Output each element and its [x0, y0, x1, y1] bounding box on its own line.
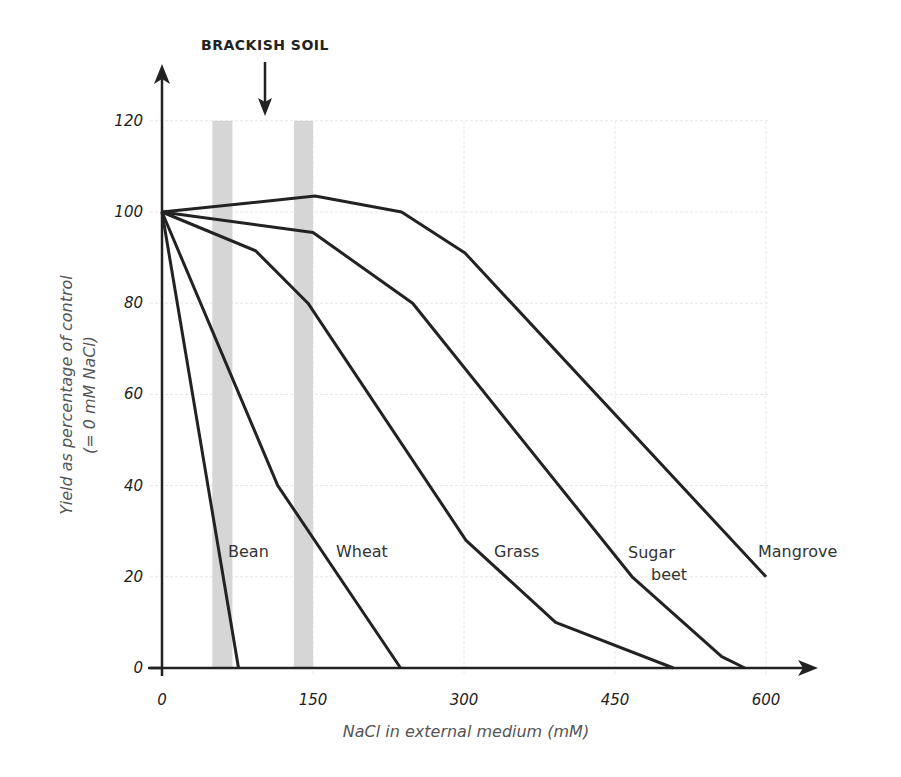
y-axis-sublabel: (= 0 mM NaCl) — [80, 336, 99, 454]
series-label-beet: beet — [651, 565, 687, 584]
shaded-band — [294, 121, 313, 668]
series-line-wheat — [162, 212, 401, 668]
x-tick-label: 150 — [299, 691, 328, 709]
y-axis-label: Yield as percentage of control — [57, 275, 76, 515]
y-tick-label: 20 — [124, 568, 143, 586]
y-tick-labels: 020406080100120 — [114, 112, 162, 677]
brackish-soil-annotation: BRACKISH SOIL — [201, 37, 329, 53]
shaded-band — [212, 121, 232, 668]
salinity-yield-chart: 020406080100120 0150300450600 BRACKISH S… — [0, 0, 901, 777]
y-tick-label: 80 — [124, 294, 143, 312]
y-tick-label: 0 — [133, 659, 143, 677]
x-tick-labels: 0150300450600 — [157, 691, 780, 709]
series-label-sugar: Sugar — [628, 543, 675, 562]
series-label-wheat: Wheat — [336, 542, 388, 561]
x-axis-label: NaCl in external medium (mM) — [343, 722, 589, 741]
series-label-bean: Bean — [228, 542, 269, 561]
series-label-grass: Grass — [494, 542, 539, 561]
x-tick-label: 300 — [450, 691, 479, 709]
x-tick-label: 450 — [601, 691, 630, 709]
y-tick-label: 120 — [114, 112, 143, 130]
series-line-sugar-beet — [162, 212, 745, 668]
axes — [148, 64, 818, 676]
y-tick-label: 100 — [114, 203, 143, 221]
y-tick-label: 60 — [124, 385, 143, 403]
x-tick-label: 0 — [157, 691, 167, 709]
y-tick-label: 40 — [124, 477, 143, 495]
x-tick-label: 600 — [752, 691, 781, 709]
series-label-mangrove: Mangrove — [758, 542, 837, 561]
series-line-grass — [162, 212, 673, 668]
